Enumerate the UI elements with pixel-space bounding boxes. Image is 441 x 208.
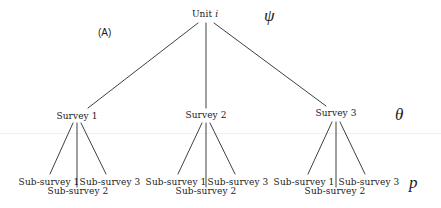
edge-s2-sub1 (178, 123, 202, 174)
edge-s3-sub3 (340, 122, 365, 174)
hierarchy-diagram: (A) Unit i ψ θ p Survey 1 Survey 2 Surve… (0, 0, 441, 208)
s2-subsurvey-node-3: Sub-survey 3 (208, 177, 269, 187)
edge-s2-sub3 (210, 123, 235, 174)
root-label-prefix: Unit (192, 9, 215, 19)
p-symbol: p (409, 174, 418, 191)
root-node-unit-i: Unit i (192, 9, 218, 19)
s1-subsurvey-node-2: Sub-survey 2 (48, 186, 109, 196)
s3-subsurvey-node-2: Sub-survey 2 (305, 186, 366, 196)
edge-s1-sub1 (50, 123, 73, 174)
s1-subsurvey-node-3: Sub-survey 3 (80, 177, 141, 187)
edge-root-survey-3 (214, 23, 326, 106)
s3-subsurvey-node-3: Sub-survey 3 (339, 177, 400, 187)
edge-s1-sub3 (81, 123, 106, 174)
theta-symbol: θ (395, 106, 403, 123)
survey-node-1: Survey 1 (56, 111, 97, 121)
edge-s3-sub1 (308, 122, 332, 174)
survey-node-2: Survey 2 (185, 110, 226, 120)
panel-label: (A) (98, 27, 111, 38)
survey-node-3: Survey 3 (315, 108, 356, 118)
s2-subsurvey-node-2: Sub-survey 2 (176, 186, 237, 196)
root-label-variable: i (215, 9, 218, 19)
psi-symbol: ψ (264, 7, 275, 24)
